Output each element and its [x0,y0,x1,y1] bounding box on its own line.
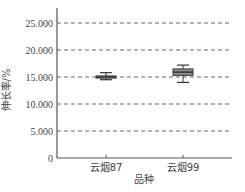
y-tick-label: 10.000 [26,99,54,110]
x-tick-label: 云烟87 [90,161,123,173]
box-1 [96,73,116,80]
y-tick-label: 0 [48,153,53,164]
y-tick-label: 20.000 [26,45,54,56]
boxes [96,65,193,82]
x-axis-label: 品种 [134,173,154,185]
y-tick-label: 25.000 [26,18,54,29]
y-axis-ticks: 05.00010.00015.00020.00025.000 [26,18,54,164]
boxplot-chart: 05.00010.00015.00020.00025.000 云烟87云烟99 … [0,0,245,192]
y-axis-label: 伸长率/% [0,69,12,112]
x-tick-label: 云烟99 [167,161,200,173]
y-tick-label: 15.000 [26,72,54,83]
y-tick-label: 5.000 [31,126,54,137]
gridlines [57,23,232,131]
box-2 [173,65,193,82]
